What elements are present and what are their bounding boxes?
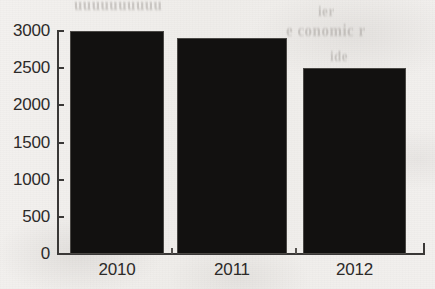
y-axis-tick-label: 3000 [4,21,50,41]
x-axis-tick-mark [171,248,173,254]
y-axis-tick-label: 0 [4,244,50,264]
x-axis-tick-mark [295,248,297,254]
y-axis-tick-mark [57,179,64,181]
y-axis-tick-label: 2000 [4,95,50,115]
x-axis-category-label: 2011 [214,260,250,280]
bar-2011 [177,38,287,254]
y-axis-tick-mark [57,216,64,218]
y-axis-tick-label: 2500 [4,58,50,78]
y-axis-tick-label: 500 [4,207,50,227]
y-axis-tick-label: 1500 [4,133,50,153]
bar-2012 [303,68,406,254]
y-axis-tick-mark [57,30,64,32]
y-axis-tick-labels: 050010001500200025003000 [4,0,50,289]
bar-2010 [70,31,164,254]
y-axis-tick-label: 1000 [4,170,50,190]
y-axis-tick-mark [57,104,64,106]
bar-chart-figure: 050010001500200025003000 201020112012 [0,0,435,289]
x-axis-end-tick [423,243,425,255]
x-axis-category-label: 2010 [98,260,135,280]
y-axis-tick-mark [57,142,64,144]
x-axis-category-label: 2012 [336,260,373,280]
y-axis-tick-mark [57,67,64,69]
